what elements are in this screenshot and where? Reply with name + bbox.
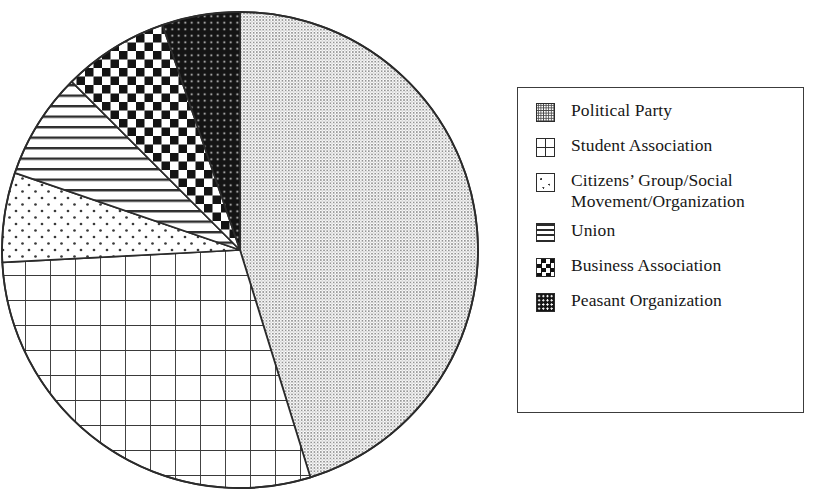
legend-item-5[interactable]: Business Association [536, 255, 791, 277]
legend-item-1[interactable]: Political Party [536, 100, 791, 122]
pie-svg [0, 0, 500, 495]
large-grid-swatch-icon [536, 138, 555, 157]
dark-sparse-dot-swatch-icon [536, 293, 555, 312]
legend-item-label: Citizens’ Group/Social Movement/Organiza… [571, 170, 745, 211]
legend-item-label: Student Association [571, 135, 712, 156]
sparse-dot-swatch-icon [536, 173, 555, 192]
legend-item-label: Union [571, 220, 615, 241]
legend-item-label: Business Association [571, 255, 721, 276]
pie-chart-graphic [0, 0, 500, 495]
legend-item-3[interactable]: Citizens’ Group/Social Movement/Organiza… [536, 170, 791, 211]
legend-item-label: Political Party [571, 100, 672, 121]
pie-chart-figure: Political PartyStudent AssociationCitize… [0, 0, 814, 495]
legend-items: Political PartyStudent AssociationCitize… [536, 100, 791, 325]
legend: Political PartyStudent AssociationCitize… [517, 87, 804, 413]
horizontal-lines-swatch-icon [536, 223, 555, 242]
pie-slices [2, 12, 478, 488]
legend-item-2[interactable]: Student Association [536, 135, 791, 157]
legend-item-4[interactable]: Union [536, 220, 791, 242]
legend-item-label: Peasant Organization [571, 290, 722, 311]
fine-dot-gray-swatch-icon [536, 103, 555, 122]
legend-item-6[interactable]: Peasant Organization [536, 290, 791, 312]
checkerboard-swatch-icon [536, 258, 555, 277]
